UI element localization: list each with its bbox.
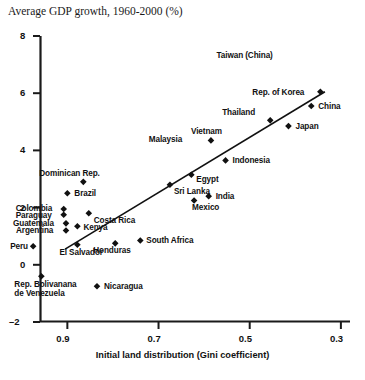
y-tick-label: 4 [20,144,25,155]
gdp-land-gini-scatter-chart: Average GDP growth, 1960-2000 (%) 86420–… [0,0,365,380]
data-point-marker [60,206,67,213]
data-point-marker [94,283,101,290]
data-point-label: Rep. Bolivanana de Venezuela [14,280,86,298]
data-point-label: Vietnam [191,127,222,136]
data-point-label: Argentina [16,226,53,235]
data-point-label: Nicaragua [104,282,143,291]
data-point-marker [308,103,315,110]
data-point-label: Dominican Rep. [39,169,99,178]
x-tick-label: 0.5 [239,333,252,344]
data-point-marker [74,223,81,230]
data-point-label: Thailand [222,108,255,117]
data-point-label: Taiwan (China) [217,51,273,60]
data-point-marker [80,179,87,186]
x-tick-label: 0.3 [330,333,343,344]
data-point-label: Sri Lanka [174,187,210,196]
data-point-marker [317,88,324,95]
y-tick-label: –2 [9,316,20,327]
data-point-marker [64,190,71,197]
data-point-label: Mexico [192,203,219,212]
data-point-marker [137,237,144,244]
data-point-label: South Africa [146,236,193,245]
data-point-label: Kenya [83,223,107,232]
axis-lines [40,36,350,322]
x-tick-label: 0.7 [148,333,161,344]
data-point-marker [222,157,229,164]
y-tick-label: 0 [20,259,25,270]
data-point-marker [63,220,70,227]
data-point-label: India [216,192,235,201]
data-point-label: Indonesia [233,156,270,165]
y-tick-label: 6 [20,87,25,98]
data-point-label: China [318,102,340,111]
data-point-marker [38,273,45,280]
x-axis-title: Initial land distribution (Gini coeffici… [0,350,365,360]
y-tick-label: 8 [20,30,25,41]
data-point-label: Malaysia [149,135,182,144]
data-point-marker [208,137,215,144]
x-tick-label: 0.9 [56,333,69,344]
data-point-marker [188,171,195,178]
data-point-marker [30,243,37,250]
data-point-label: Honduras [93,246,130,255]
data-point-label: Brazil [74,189,96,198]
data-point-marker [60,211,67,218]
data-point-marker [285,123,292,130]
data-point-label: Japan [295,122,318,131]
data-point-label: Peru [10,242,28,251]
data-point-label: Rep. of Korea [252,88,304,97]
data-point-label: Egypt [196,175,218,184]
data-point-marker [63,227,70,234]
data-point-marker [85,210,92,217]
